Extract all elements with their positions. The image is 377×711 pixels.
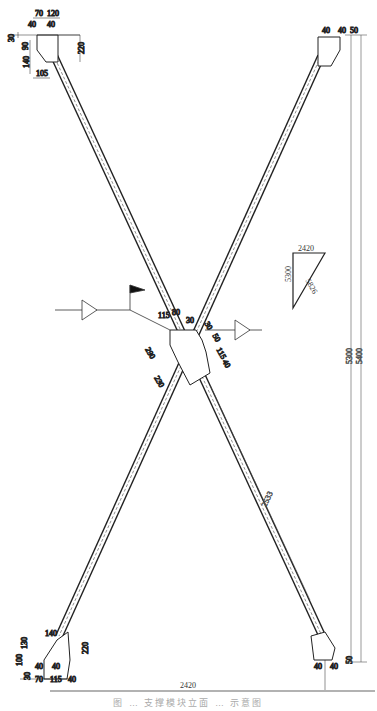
dim-label-5300: 5300 (345, 348, 354, 364)
dim-label: 105 (36, 69, 48, 78)
dim-label: 40 (221, 358, 233, 369)
gusset-center: 115 80 30 290 230 30 50 115 40 (143, 308, 232, 389)
dim-label: 90 (21, 42, 30, 50)
dim-label-5400: 5400 (355, 348, 364, 364)
gusset-bottom-right: 40 40 50 (311, 632, 354, 690)
dim-label: 50 (345, 656, 354, 664)
dim-label: 40 (314, 662, 322, 671)
dim-label: 140 (22, 56, 31, 68)
gusset-top-right: 40 40 50 (318, 26, 358, 66)
dim-label-2533: 2533 (260, 490, 275, 508)
dim-label: 50 (211, 332, 223, 343)
dim-label: 40 (28, 20, 36, 29)
dim-label: 120 (47, 9, 59, 18)
figure-caption: 图 … 支撑模块立面 … 示意图 (0, 696, 377, 709)
dim-label: 40 (322, 26, 330, 35)
dim-label: 40 (68, 675, 76, 684)
dim-label: 40 (47, 20, 55, 29)
dim-label: 40 (52, 662, 60, 671)
slope-triangle: 2420 5300 5826 (284, 244, 325, 308)
dimension-horizontal-bottom: 2420 (180, 681, 196, 690)
dim-label: 115 (158, 311, 170, 320)
dim-label: 230 (152, 374, 166, 389)
dimension-brace-length: 2533 (210, 385, 310, 600)
dim-label: 50 (350, 26, 358, 35)
dim-label: 220 (81, 642, 90, 654)
dim-label: 140 (45, 629, 57, 638)
dim-label: 290 (143, 346, 157, 361)
dimension-vertical-right: 5300 5400 (345, 35, 367, 662)
dim-label: 70 (35, 675, 43, 684)
dim-label: 30 (7, 34, 16, 42)
dim-label: 220 (77, 42, 86, 54)
dim-label: 40 (35, 662, 43, 671)
dim-label: 130 (20, 637, 29, 649)
dim-label: 30 (186, 316, 194, 325)
gusset-top-left: 70 120 40 40 30 90 140 105 220 (7, 9, 86, 78)
dim-label: 100 (15, 654, 24, 666)
dim-label: 30 (23, 672, 32, 680)
dim-label: 40 (330, 662, 338, 671)
section-marker-left (55, 285, 170, 330)
dim-label: 40 (338, 26, 346, 35)
dim-label-2420: 2420 (180, 681, 196, 690)
slope-horizontal: 2420 (298, 244, 314, 253)
dim-label: 70 (35, 9, 43, 18)
dim-label: 80 (172, 308, 180, 317)
flag-icon (130, 285, 145, 293)
slope-vertical: 5300 (284, 266, 293, 282)
dim-label: 115 (50, 675, 62, 684)
